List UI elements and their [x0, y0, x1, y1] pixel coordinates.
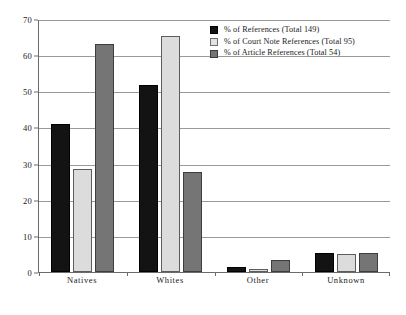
bar — [271, 260, 290, 272]
x-axis-label-unknown: Unknown — [302, 276, 390, 285]
legend-item-label: % of References (Total 149) — [224, 26, 319, 34]
y-axis-tick-label: 50 — [23, 88, 32, 97]
bar-groups — [39, 20, 390, 272]
bar — [337, 254, 356, 272]
bar — [183, 172, 202, 272]
bar — [139, 85, 158, 272]
bar — [249, 269, 268, 272]
y-axis-tick-label: 0 — [28, 269, 32, 278]
x-axis-labels: NativesWhitesOtherUnknown — [38, 276, 390, 285]
legend-item: % of References (Total 149) — [210, 26, 355, 34]
y-axis-tick-label: 30 — [23, 160, 32, 169]
light-gray-swatch — [210, 38, 218, 46]
bar — [359, 253, 378, 272]
plot-area — [38, 20, 390, 273]
chart-legend: % of References (Total 149)% of Court No… — [210, 26, 355, 58]
bar-group-other — [215, 20, 303, 272]
y-axis-tick-label: 60 — [23, 52, 32, 61]
y-axis-tick-label: 70 — [23, 16, 32, 25]
dark-gray-swatch — [210, 50, 218, 58]
legend-item: % of Article References (Total 54) — [210, 49, 355, 57]
y-axis-tick-label: 40 — [23, 124, 32, 133]
black-swatch — [210, 26, 218, 34]
bar — [161, 36, 180, 272]
x-axis-label-whites: Whites — [126, 276, 214, 285]
y-axis: 010203040506070 — [0, 20, 38, 273]
bar — [95, 44, 114, 272]
bar-group-unknown — [302, 20, 390, 272]
bar — [73, 169, 92, 272]
bar-group-whites — [127, 20, 215, 272]
bar-chart: 010203040506070 NativesWhitesOtherUnknow… — [0, 0, 406, 315]
legend-item: % of Court Note References (Total 95) — [210, 38, 355, 46]
bar — [315, 253, 334, 272]
bar — [51, 124, 70, 272]
legend-item-label: % of Court Note References (Total 95) — [224, 38, 355, 46]
y-axis-tick-label: 10 — [23, 233, 32, 242]
bar — [227, 267, 246, 272]
bar-group-natives — [39, 20, 127, 272]
legend-item-label: % of Article References (Total 54) — [224, 49, 340, 57]
y-axis-tick-label: 20 — [23, 196, 32, 205]
x-axis-label-natives: Natives — [38, 276, 126, 285]
x-axis-label-other: Other — [214, 276, 302, 285]
